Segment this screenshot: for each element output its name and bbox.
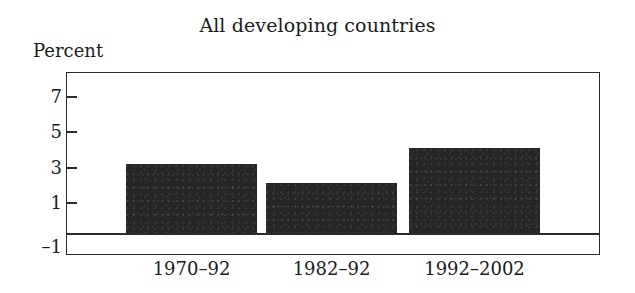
y-tick-mark-1 [67,202,77,204]
y-tick-label-7: 7 [18,88,62,106]
y-tick-label-minus-1: –1 [18,238,62,256]
bar-1982-92 [266,183,397,233]
y-tick-mark-5 [67,131,77,133]
x-tick-label-1970-92: 1970–92 [126,258,257,280]
chart-title: All developing countries [0,13,635,37]
y-tick-mark-7 [67,96,77,98]
x-tick-label-1982-92: 1982–92 [266,258,397,280]
bar-chart-figure: All developing countries Percent 7 5 3 1… [0,0,635,293]
y-tick-label-3: 3 [18,159,62,177]
bar-1992-2002 [409,148,540,233]
y-tick-label-1: 1 [18,194,62,212]
zero-baseline [66,233,600,235]
y-tick-mark-3 [67,167,77,169]
y-axis-tick-labels: 7 5 3 1 –1 [14,0,62,293]
x-tick-label-1992-2002: 1992–2002 [404,258,545,280]
y-tick-label-5: 5 [18,123,62,141]
bar-1970-92 [126,164,257,233]
